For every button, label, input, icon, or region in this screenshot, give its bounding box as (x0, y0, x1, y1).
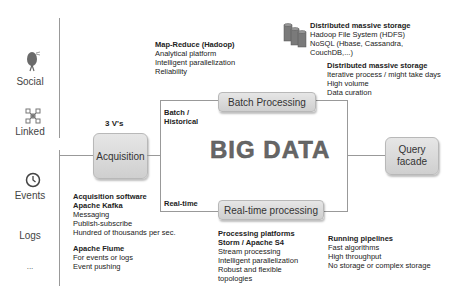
mapreduce-item: Analytical platform (155, 49, 235, 58)
query-label-line2: facade (397, 156, 427, 168)
platforms-title: Processing platforms (218, 229, 298, 238)
acquisition-to-center-line (147, 155, 160, 156)
center-to-query-line (347, 155, 385, 156)
mapreduce-item: Reliability (155, 67, 235, 76)
kafka-item: Publish-subscribe (73, 219, 176, 228)
source-social: Social (2, 76, 58, 87)
database-cylinders-icon (283, 22, 307, 52)
acquisition-box: Acquisition (93, 133, 148, 179)
storage-title: Distributed massive storage (327, 61, 441, 70)
big-data-title: BIG DATA (210, 136, 330, 164)
storage-item: CouchDB,...) (310, 48, 410, 57)
three-vs-label: 3 V's (105, 119, 123, 128)
storage-item: High volume (327, 79, 441, 88)
pipelines-title: Running pipelines (328, 234, 431, 243)
platforms-item: Robust and flexible (218, 265, 298, 274)
mapreduce-notes: Map-Reduce (Hadoop) Analytical platform … (155, 40, 235, 76)
source-linked: Linked (2, 126, 58, 137)
batch-processing-box: Batch Processing (218, 92, 316, 112)
storage-item: Hadoop File System (HDFS) (310, 30, 410, 39)
storage-notes-2: Distributed massive storage Iterative pr… (327, 61, 441, 97)
platforms-subtitle: Storm / Apache S4 (218, 238, 298, 247)
platforms-item: Stream processing (218, 247, 298, 256)
flume-item: Event pushing (73, 262, 176, 271)
platforms-item: Intelligent parallelization (218, 256, 298, 265)
batch-historical-label: Batch / Historical (164, 108, 198, 126)
pipelines-item: No storage or complex storage (328, 261, 431, 270)
flume-item: For events or logs (73, 253, 176, 262)
clock-icon (25, 172, 41, 192)
source-events: Events (2, 190, 58, 201)
query-label-line1: Query (398, 144, 425, 156)
query-facade-box: Query facade (385, 137, 439, 175)
pipelines-notes: Running pipelines Fast algorithms High t… (328, 234, 431, 270)
source-logs: Logs (2, 230, 58, 241)
flume-title: Apache Flume (73, 244, 176, 253)
acquisition-label: Acquisition (96, 151, 144, 162)
storage-title: Distributed massive storage (310, 21, 410, 30)
source-more: ... (2, 262, 58, 271)
sources-to-acquisition-line (60, 155, 93, 156)
network-icon (25, 108, 41, 128)
storage-notes-1: Distributed massive storage Hadoop File … (310, 21, 410, 57)
platforms-item: topologies (218, 274, 298, 283)
social-bird-icon (25, 50, 41, 76)
kafka-item: Hundred of thousands per sec. (73, 228, 176, 237)
storage-item: NoSQL (Hbase, Cassandra, (310, 39, 410, 48)
storage-item: Iterative process / might take days (327, 70, 441, 79)
pipelines-item: High throughput (328, 252, 431, 261)
mapreduce-item: Intelligent parallelization (155, 58, 235, 67)
pipelines-item: Fast algorithms (328, 243, 431, 252)
realtime-processing-box: Real-time processing (218, 200, 324, 220)
realtime-processing-label: Real-time processing (224, 205, 318, 216)
processing-platforms-notes: Processing platforms Storm / Apache S4 S… (218, 229, 298, 283)
sources-divider-lower (59, 150, 60, 286)
storage-item: Data curation (327, 88, 441, 97)
mapreduce-title: Map-Reduce (Hadoop) (155, 40, 235, 49)
batch-processing-label: Batch Processing (228, 97, 306, 108)
batch-label-line1: Batch / (164, 108, 198, 117)
realtime-label: Real-time (164, 199, 198, 208)
batch-label-line2: Historical (164, 117, 198, 126)
sources-divider (59, 18, 60, 138)
